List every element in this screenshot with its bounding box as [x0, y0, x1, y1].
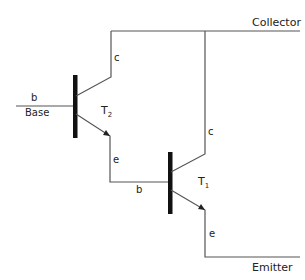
- darlington-circuit: Collector b Base c e T2 b c e T1 Emitter: [0, 0, 305, 280]
- t1-emitter-pin-label: e: [209, 228, 215, 239]
- t1-emitter-wire: [171, 190, 300, 257]
- emitter-label: Emitter: [252, 261, 293, 274]
- t2-collector-pin-label: c: [114, 52, 120, 63]
- t2-emitter-pin-label: e: [113, 154, 119, 165]
- t2-base-pin-label: b: [31, 92, 37, 103]
- base-label: Base: [25, 107, 49, 118]
- t1-base-bar: [168, 152, 173, 214]
- t2-emitter-arrow-icon: [103, 130, 110, 136]
- t1-collector-pin-label: c: [208, 126, 214, 137]
- t1-base-pin-label: b: [136, 184, 142, 195]
- t1-label: T1: [197, 175, 209, 190]
- t2-base-bar: [73, 75, 78, 138]
- t1-collector-wire: [171, 31, 205, 172]
- t2-emitter-wire: [76, 114, 170, 182]
- t2-collector-wire: [76, 31, 111, 96]
- collector-label: Collector: [252, 16, 301, 29]
- t2-label: T2: [100, 104, 112, 119]
